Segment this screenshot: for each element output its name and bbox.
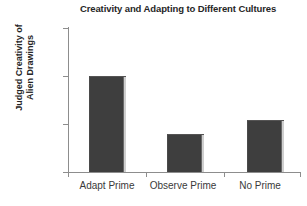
y-axis-title-line-2: Alien Drawings — [24, 0, 35, 138]
y-axis-title-line-1: Judged Creativity of — [14, 0, 25, 138]
x-tick-mark-2 — [224, 172, 225, 177]
y-tick-mark-4 — [63, 28, 69, 29]
y-axis-title: Judged Creativity of Alien Drawings — [14, 0, 35, 138]
bar-adapt-prime[interactable] — [89, 76, 126, 172]
y-axis-line — [68, 27, 69, 173]
x-axis-line — [68, 172, 301, 173]
x-tick-label-no-prime: No Prime — [216, 180, 304, 191]
chart-title: Creativity and Adapting to Different Cul… — [52, 3, 304, 14]
bar-chart-figure: Creativity and Adapting to Different Cul… — [0, 0, 307, 206]
x-tick-mark-1 — [146, 172, 147, 177]
y-tick-mark-3 — [63, 124, 69, 125]
bar-no-prime[interactable] — [247, 120, 284, 172]
x-tick-mark-3 — [300, 172, 301, 177]
x-tick-mark-0 — [68, 172, 69, 177]
bar-observe-prime[interactable] — [167, 134, 204, 172]
y-tick-mark-3-5 — [63, 76, 69, 77]
